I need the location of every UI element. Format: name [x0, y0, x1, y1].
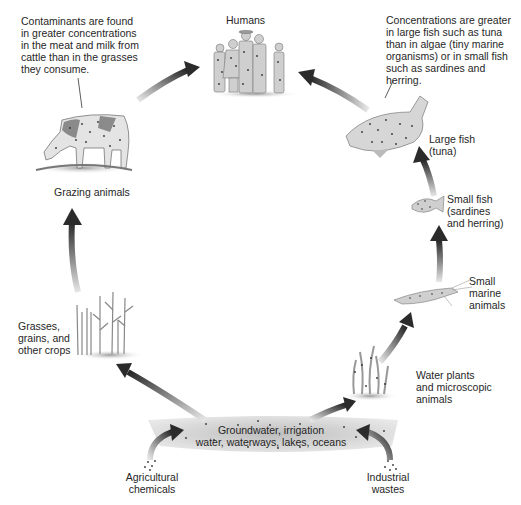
arrow-water-to-crops — [116, 363, 205, 420]
arrow-water-to-waterplants — [310, 397, 356, 420]
label-humans: Humans — [226, 14, 265, 26]
arrow-smallmarine-to-smallfish — [430, 225, 448, 282]
callout-fish: Concentrations are greater in large fish… — [386, 14, 511, 86]
arrow-grazing-to-humans — [138, 61, 200, 100]
label-line: (tuna) — [429, 145, 475, 157]
callout-cattle-line: cattle than in the grasses — [21, 51, 139, 63]
callout-fish-line: Concentrations are greater — [386, 14, 511, 26]
label-line: grains, and — [18, 332, 71, 344]
label-line: water, waterways, lakes, oceans — [188, 436, 354, 448]
label-line: wastes — [348, 483, 428, 495]
label-line: (sardines — [447, 205, 504, 217]
label-line: Water plants — [416, 369, 492, 381]
label-humans-text: Humans — [226, 14, 265, 26]
label-water-plants: Water plants and microscopic animals — [416, 369, 492, 405]
label-line: and microscopic — [416, 381, 492, 393]
arrow-largefish-to-humans — [298, 69, 368, 110]
label-line: Small fish — [447, 193, 504, 205]
label-line: Small — [469, 275, 505, 287]
label-line: animals — [469, 299, 505, 311]
callout-fish-line: than in algae (tiny marine — [386, 38, 511, 50]
label-groundwater: Groundwater, irrigation water, waterways… — [188, 424, 354, 448]
label-line: chemicals — [112, 483, 192, 495]
label-agricultural-chemicals: Agricultural chemicals — [112, 471, 192, 495]
callout-fish-line: such as sardines and — [386, 62, 511, 74]
label-small-marine-animals: Small marine animals — [469, 275, 505, 311]
label-line: animals — [416, 393, 492, 405]
label-line: Agricultural — [112, 471, 192, 483]
label-line: and herring) — [447, 217, 504, 229]
label-line: Grasses, — [18, 320, 71, 332]
label-small-fish: Small fish (sardines and herring) — [447, 193, 504, 229]
callout-pointer-cattle — [78, 78, 82, 108]
crops-icon — [76, 292, 144, 360]
callout-fish-line: herring. — [386, 74, 511, 86]
humans-icon — [210, 30, 300, 98]
callout-cattle-line: they consume. — [21, 63, 139, 75]
label-crops: Grasses, grains, and other crops — [18, 320, 71, 356]
label-line: other crops — [18, 344, 71, 356]
label-line: marine — [469, 287, 505, 299]
callout-cattle: Contaminants are found in greater concen… — [21, 15, 139, 75]
label-large-fish: Large fish (tuna) — [429, 133, 475, 157]
callout-fish-line: organisms) or in small fish — [386, 50, 511, 62]
arrow-crops-to-grazing — [63, 208, 82, 292]
label-industrial-wastes: Industrial wastes — [348, 471, 428, 495]
label-grazing-animals: Grazing animals — [54, 186, 130, 198]
label-line: Industrial — [348, 471, 428, 483]
small-fish-icon — [412, 196, 444, 212]
arrow-waterplants-to-smallmarine — [380, 312, 414, 362]
callout-cattle-line: in the meat and milk from — [21, 39, 139, 51]
label-line: Large fish — [429, 133, 475, 145]
droplets-icon — [144, 460, 397, 471]
callout-fish-line: in large fish such as tuna — [386, 26, 511, 38]
callout-cattle-line: in greater concentrations — [21, 27, 139, 39]
callout-cattle-line: Contaminants are found — [21, 15, 139, 27]
label-grazing-text: Grazing animals — [54, 186, 130, 198]
shrimp-icon — [394, 280, 472, 306]
label-line: Groundwater, irrigation — [188, 424, 354, 436]
cow-icon — [32, 115, 132, 174]
